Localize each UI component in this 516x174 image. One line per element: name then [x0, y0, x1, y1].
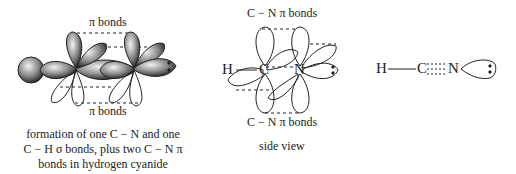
pi-bonds-top-label: π bonds: [89, 15, 127, 30]
atom-n-side-view: N: [294, 61, 305, 78]
atom-c-triple-bond: C: [417, 60, 427, 77]
hcn-triple-bond-diagram: [388, 60, 496, 79]
caption-line-1: formation of one C − N and one: [8, 127, 198, 142]
atom-c-side-view: C: [259, 61, 269, 78]
hcn-side-view-diagram: [228, 27, 338, 113]
caption-line-2: C − H σ bonds, plus two C − N π: [8, 142, 198, 157]
pi-bonds-bottom-label: π bonds: [89, 104, 127, 119]
cn-pi-bonds-bottom-label: C − N π bonds: [247, 115, 317, 130]
cn-pi-bonds-top-label: C − N π bonds: [247, 6, 317, 21]
left-caption: formation of one C − N and one C − H σ b…: [8, 127, 198, 172]
atom-n-triple-bond: N: [448, 60, 459, 77]
atom-h-side-view: H: [222, 61, 233, 78]
hcn-orbital-overlap-diagram: [18, 32, 176, 106]
side-view-caption: side view: [259, 139, 305, 154]
caption-line-3: bonds in hydrogen cyanide: [8, 157, 198, 172]
atom-h-triple-bond: H: [376, 60, 387, 77]
